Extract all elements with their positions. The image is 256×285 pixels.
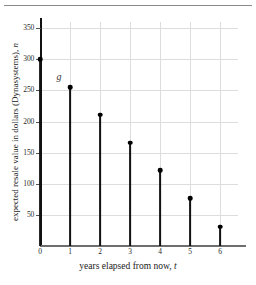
x-axis-title: years elapsed from now, t [0,261,256,271]
data-point-marker [218,224,223,229]
data-point-marker [68,85,73,90]
y-axis-title-variable: n [10,43,20,48]
y-axis-title: expected resale value in dollars (Dynasy… [10,20,20,244]
data-point-marker [38,57,43,62]
x-tick-label: 4 [152,248,168,256]
y-tick-mark [36,28,41,29]
data-stem [39,59,41,246]
x-tick-label: 0 [32,248,48,256]
data-stem [69,87,71,246]
data-point-marker [98,112,103,117]
data-point-marker [188,196,193,201]
data-stem [99,115,101,246]
data-point-marker [128,140,133,145]
x-tick-label: 6 [212,248,228,256]
x-axis-title-text: years elapsed from now, [79,261,171,271]
x-axis-title-variable: t [174,261,177,271]
x-tick-label: 2 [92,248,108,256]
data-stem [129,143,131,246]
data-stem [159,170,161,246]
gridline-vertical [220,22,221,246]
function-label-g: g [57,71,62,82]
data-point-marker [158,168,163,173]
y-axis-title-text: expected resale value in dollars (Dynasy… [10,50,20,221]
data-stem [219,227,221,246]
chart-figure: 50100150200250300350 0123456 g years ela… [0,0,256,285]
x-tick-label: 1 [62,248,78,256]
x-tick-label: 3 [122,248,138,256]
x-tick-label: 5 [182,248,198,256]
data-stem [189,198,191,246]
